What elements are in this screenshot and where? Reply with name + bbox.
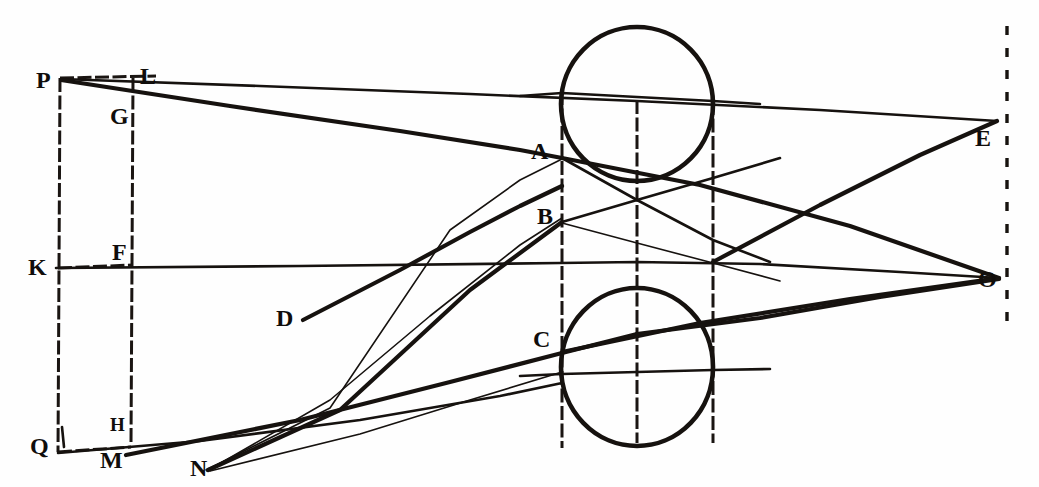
- ray-n-to-a: [206, 159, 562, 470]
- label-point-g: G: [110, 104, 129, 128]
- optical-diagram-figure: P L G A E B K F O D C H Q M N: [0, 0, 1039, 487]
- label-point-p: P: [36, 68, 51, 92]
- label-point-f: F: [112, 240, 127, 264]
- ray-n-to-c: [210, 372, 562, 471]
- left-frame-group: [58, 76, 156, 452]
- ray-p-to-a: [61, 80, 562, 158]
- label-point-b: B: [537, 204, 553, 228]
- label-point-k: K: [28, 255, 47, 279]
- label-point-q: Q: [30, 434, 49, 458]
- label-point-e: E: [975, 126, 991, 150]
- label-point-l: L: [140, 64, 156, 88]
- label-point-o: O: [978, 267, 997, 291]
- frame-left-vertical: [58, 78, 60, 452]
- label-point-m: M: [100, 448, 123, 472]
- axis-k-to-o: [56, 262, 999, 278]
- corner-tick-q: [62, 427, 64, 447]
- label-point-d: D: [276, 306, 293, 330]
- chord-lower-lens: [520, 369, 770, 376]
- ray-band-to-o-low: [637, 279, 999, 334]
- label-point-h: H: [110, 415, 125, 434]
- lens-band-verticals: [562, 91, 713, 448]
- ray-a-to-o: [562, 158, 999, 278]
- frame-inner-vertical: [131, 78, 133, 443]
- label-point-c: C: [533, 327, 550, 351]
- label-point-n: N: [190, 456, 207, 480]
- label-point-a: A: [531, 139, 548, 163]
- ray-band-to-e: [713, 121, 997, 262]
